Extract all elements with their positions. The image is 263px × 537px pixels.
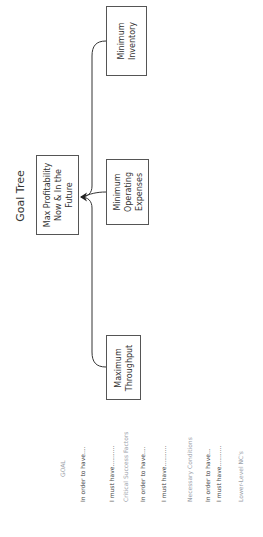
csf-node-operating-expenses-label: Minimum Operating Expenses bbox=[111, 172, 144, 212]
legend-in-order-2: In order to have.... bbox=[139, 446, 146, 502]
csf-node-inventory: Minimum Inventory bbox=[106, 6, 147, 76]
legend-critical-success-factors: Critical Success Factors bbox=[122, 432, 129, 502]
csf-node-operating-expenses: Minimum Operating Expenses bbox=[106, 159, 149, 225]
csf-node-throughput-label: Maximum Throughput bbox=[113, 344, 135, 390]
legend-must-have-3: I must have........... bbox=[215, 446, 222, 502]
diagram-title: Goal Tree bbox=[14, 170, 27, 221]
connector-lines bbox=[0, 0, 263, 537]
goal-node-label: Max Profitability Now & In the Future bbox=[41, 163, 74, 227]
legend-must-have-1: I must have........... bbox=[108, 446, 115, 502]
arrowhead-icon bbox=[80, 193, 87, 202]
legend-must-have-2: I must have........... bbox=[160, 446, 167, 502]
connector-throughput bbox=[81, 197, 106, 367]
legend-in-order-1: In order to have.... bbox=[79, 446, 86, 502]
legend-in-order-3: In order to have... bbox=[204, 448, 211, 502]
csf-node-throughput: Maximum Throughput bbox=[106, 335, 141, 400]
legend-necessary-conditions: Necessary Conditions bbox=[186, 437, 193, 502]
goal-tree-diagram: Goal Tree Max Profitability Now & In the… bbox=[0, 0, 263, 537]
csf-node-inventory-label: Minimum Inventory bbox=[116, 22, 138, 60]
legend-goal: GOAL bbox=[59, 460, 66, 477]
legend-lower-level-ncs: Lower-Level NC's bbox=[237, 451, 244, 502]
connector-inventory bbox=[81, 41, 106, 197]
goal-node: Max Profitability Now & In the Future bbox=[36, 155, 79, 235]
